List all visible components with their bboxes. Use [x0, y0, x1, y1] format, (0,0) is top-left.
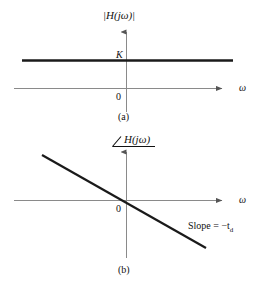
panel-a-x-axis-label: ω: [239, 83, 246, 93]
panel-a-origin-label: 0: [116, 92, 121, 102]
phase-slope-line: [42, 155, 206, 248]
slope-annotation: Slope = −td: [188, 221, 233, 234]
slope-annotation-subscript: d: [230, 226, 234, 234]
figure-container: |H(jω)| K ω 0 (a) H(jω) ω 0 Slope = −td …: [0, 0, 259, 289]
panel-b-y-axis-label: H(jω): [124, 134, 150, 145]
panel-a-part-label: (a): [118, 112, 129, 122]
panel-b-origin-label: 0: [116, 204, 121, 214]
panel-b-x-axis-label: ω: [239, 195, 246, 205]
slope-annotation-text: Slope = −t: [188, 220, 230, 231]
panel-b-data-line: [42, 155, 206, 248]
panel-a-y-axis-label: |H(jω)|: [103, 10, 135, 21]
panel-a-level-label-k: K: [116, 50, 123, 60]
panel-b-part-label: (b): [118, 265, 130, 275]
